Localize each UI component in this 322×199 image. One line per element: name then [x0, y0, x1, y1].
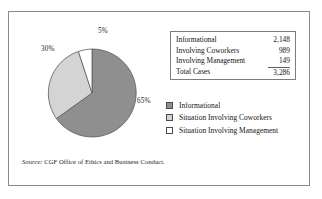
table-row-total: Total Cases 3,286 — [176, 67, 290, 78]
table-cell-value: 149 — [268, 56, 290, 67]
table-cell-value: 989 — [268, 46, 290, 57]
pie-label-informational-percent: 65% — [137, 97, 150, 105]
case-counts-table-body: Informational 2,148 Involving Coworkers … — [176, 35, 290, 78]
table-row: Involving Management 149 — [176, 56, 290, 67]
table-cell-label: Involving Coworkers — [176, 46, 268, 57]
table-cell-value: 2,148 — [268, 35, 290, 46]
table-cell-label: Involving Management — [176, 56, 268, 67]
legend-item-management: Situation Involving Management — [166, 124, 306, 137]
legend-item-informational: Informational — [166, 99, 306, 112]
legend-swatch-icon — [166, 102, 173, 109]
pie-label-management-percent: 5% — [98, 27, 108, 35]
legend-label: Situation Involving Management — [179, 126, 278, 135]
source-note-prefix: Source: — [22, 158, 43, 165]
legend-swatch-icon — [166, 114, 173, 121]
source-note-text: CGF Office of Ethics and Business Conduc… — [44, 158, 164, 165]
pie-label-coworkers-percent: 30% — [41, 45, 54, 53]
table-cell-label: Informational — [176, 35, 268, 46]
figure-container: 5% 30% 65% Informational 2,148 Involving… — [0, 0, 322, 199]
chart-legend: Informational Situation Involving Cowork… — [166, 99, 306, 137]
pie-chart-svg — [40, 26, 170, 146]
pie-chart: 5% 30% 65% — [40, 26, 170, 146]
table-cell-total-label: Total Cases — [176, 67, 268, 78]
legend-label: Informational — [179, 101, 220, 110]
source-note: Source: CGF Office of Ethics and Busines… — [22, 158, 165, 165]
case-counts-table: Informational 2,148 Involving Coworkers … — [170, 31, 296, 80]
legend-swatch-icon — [166, 127, 173, 134]
table-row: Involving Coworkers 989 — [176, 46, 290, 57]
legend-label: Situation Involving Coworkers — [179, 113, 272, 122]
legend-item-coworkers: Situation Involving Coworkers — [166, 112, 306, 125]
table-row: Informational 2,148 — [176, 35, 290, 46]
table-cell-total-value: 3,286 — [268, 67, 290, 78]
